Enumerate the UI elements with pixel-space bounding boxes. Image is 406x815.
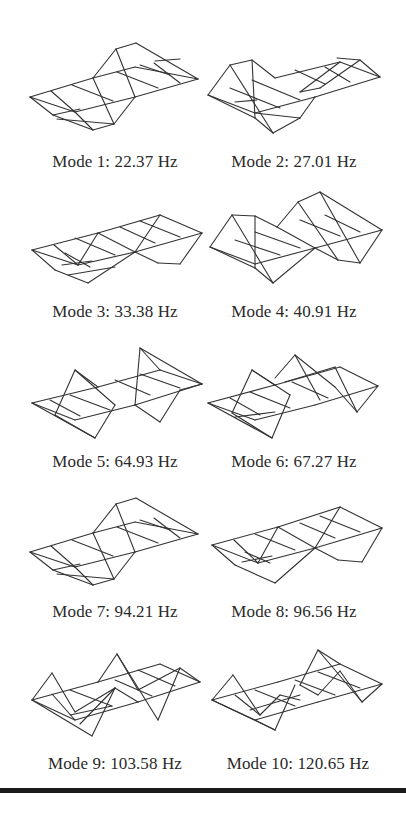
mode-7-caption: Mode 7: 94.21 Hz bbox=[20, 602, 210, 622]
mode-1-wireframe bbox=[20, 35, 210, 145]
mode-8-wireframe bbox=[200, 490, 390, 600]
mode-3-wireframe bbox=[20, 185, 210, 295]
mode-6-caption: Mode 6: 67.27 Hz bbox=[199, 452, 389, 472]
wireframe-svg bbox=[20, 340, 210, 450]
wireframe-svg bbox=[20, 490, 210, 600]
mode-5-caption: Mode 5: 64.93 Hz bbox=[20, 452, 210, 472]
mode-6-wireframe bbox=[200, 340, 390, 450]
mode-7-wireframe bbox=[20, 490, 210, 600]
wireframe-svg bbox=[200, 640, 390, 750]
wireframe-svg bbox=[200, 40, 390, 150]
wireframe-svg bbox=[200, 340, 390, 450]
mode-10-wireframe bbox=[200, 640, 390, 750]
mode-9-caption: Mode 9: 103.58 Hz bbox=[20, 754, 210, 774]
mode-8-caption: Mode 8: 96.56 Hz bbox=[199, 602, 389, 622]
mode-2-wireframe bbox=[200, 40, 390, 150]
mode-3-caption: Mode 3: 33.38 Hz bbox=[20, 302, 210, 322]
wireframe-svg bbox=[20, 640, 210, 750]
mode-5-wireframe bbox=[20, 340, 210, 450]
wireframe-svg bbox=[20, 185, 210, 295]
wireframe-svg bbox=[200, 490, 390, 600]
mode-10-caption: Mode 10: 120.65 Hz bbox=[203, 754, 393, 774]
wireframe-svg bbox=[200, 180, 390, 290]
mode-2-caption: Mode 2: 27.01 Hz bbox=[199, 152, 389, 172]
wireframe-svg bbox=[20, 35, 210, 145]
mode-4-caption: Mode 4: 40.91 Hz bbox=[199, 302, 389, 322]
mode-9-wireframe bbox=[20, 640, 210, 750]
mode-1-caption: Mode 1: 22.37 Hz bbox=[20, 152, 210, 172]
bottom-rule-divider bbox=[0, 788, 406, 793]
mode-4-wireframe bbox=[200, 180, 390, 290]
